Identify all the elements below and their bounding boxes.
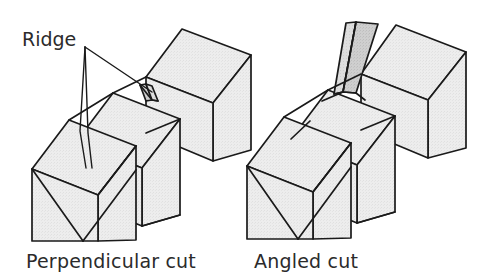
ridge-label: Ridge [22, 28, 76, 50]
panel-angled-cut: Angled cut [247, 22, 466, 272]
panel-perpendicular-cut: Ridge Perpendicular cut [22, 28, 251, 272]
cut-comparison-figure: Ridge Perpendicular cut [0, 0, 496, 280]
caption-perpendicular-cut: Perpendicular cut [26, 250, 196, 272]
caption-angled-cut: Angled cut [254, 250, 358, 272]
ridge-leader-line-upper [85, 47, 152, 92]
